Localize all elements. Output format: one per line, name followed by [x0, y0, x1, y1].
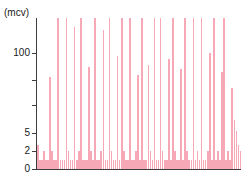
y-axis-tick	[32, 151, 37, 152]
bar	[137, 75, 139, 169]
plot-area	[37, 18, 243, 169]
bar	[94, 18, 96, 169]
bar	[180, 69, 182, 169]
y-axis-tick	[32, 53, 37, 54]
bar	[201, 18, 203, 169]
x-axis-line	[36, 169, 241, 170]
bar	[184, 18, 186, 169]
bar	[193, 18, 195, 169]
y-axis-tick-label: 0	[0, 163, 30, 175]
bar	[109, 18, 111, 169]
bar	[80, 18, 82, 169]
y-axis-tick	[32, 133, 37, 134]
bar	[129, 18, 131, 169]
bar	[168, 59, 170, 169]
bar-chart: (mcv) 100520	[0, 0, 243, 186]
bar	[223, 18, 225, 169]
bar	[209, 53, 211, 169]
bar	[74, 27, 76, 169]
bar	[117, 56, 119, 169]
bar	[66, 18, 68, 169]
y-axis-tick-label-text: 0	[0, 163, 30, 174]
y-axis-tick	[32, 105, 37, 106]
bar	[172, 18, 174, 169]
bar	[154, 18, 156, 169]
bar	[103, 30, 105, 169]
bar	[240, 151, 242, 169]
y-axis-tick-label-text: 2	[0, 145, 30, 156]
bar	[213, 18, 215, 169]
bar	[121, 18, 123, 169]
bar-series	[37, 18, 243, 169]
y-axis-tick-label-text: 100	[0, 47, 30, 58]
y-axis-line	[36, 18, 37, 170]
y-axis-unit-label: (mcv)	[4, 7, 29, 18]
y-axis-tick	[32, 80, 37, 81]
y-axis-tick-label: 5	[0, 127, 30, 139]
bar	[160, 18, 162, 169]
y-axis-tick-label-text: 5	[0, 127, 30, 138]
y-axis-tick-label: 100	[0, 47, 30, 59]
y-axis-tick-label: 2	[0, 145, 30, 157]
bar	[57, 18, 59, 169]
y-axis-tick	[32, 169, 37, 170]
bar	[141, 18, 143, 169]
